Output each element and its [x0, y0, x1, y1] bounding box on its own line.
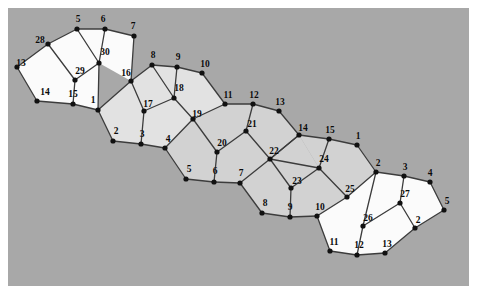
graph-vertex — [128, 78, 133, 83]
graph-vertex — [401, 173, 406, 178]
figure-stage: 1328567302914151168910181723191112132120… — [0, 0, 477, 294]
graph-vertex — [95, 107, 100, 112]
graph-vertex — [267, 156, 272, 161]
graph-vertex — [96, 60, 101, 65]
graph-vertex — [360, 223, 365, 228]
graph-vertex — [276, 108, 281, 113]
graph-vertex — [70, 101, 75, 106]
graph-vertex — [327, 248, 332, 253]
graph-vertex — [250, 101, 255, 106]
graph-vertex — [243, 128, 248, 133]
graph-vertex — [74, 26, 79, 31]
graph-vertex — [222, 101, 227, 106]
polygon-tiling-svg — [0, 0, 477, 294]
graph-vertex — [45, 41, 50, 46]
graph-vertex — [131, 33, 136, 38]
diagram-canvas — [0, 0, 477, 294]
graph-vertex — [427, 179, 432, 184]
graph-vertex — [183, 176, 188, 181]
graph-vertex — [102, 26, 107, 31]
graph-vertex — [72, 77, 77, 82]
graph-vertex — [149, 62, 154, 67]
graph-vertex — [314, 213, 319, 218]
graph-vertex — [110, 138, 115, 143]
graph-vertex — [354, 252, 359, 257]
graph-vertex — [141, 108, 146, 113]
graph-vertex — [354, 142, 359, 147]
graph-vertex — [397, 200, 402, 205]
graph-vertex — [211, 179, 216, 184]
graph-vertex — [199, 70, 204, 75]
graph-vertex — [34, 98, 39, 103]
graph-vertex — [138, 141, 143, 146]
graph-vertex — [214, 149, 219, 154]
graph-vertex — [259, 210, 264, 215]
graph-vertex — [412, 225, 417, 230]
graph-vertex — [373, 169, 378, 174]
graph-vertex — [296, 132, 301, 137]
graph-vertex — [316, 165, 321, 170]
graph-vertex — [382, 250, 387, 255]
graph-vertex — [326, 136, 331, 141]
graph-vertex — [162, 145, 167, 150]
graph-vertex — [174, 64, 179, 69]
graph-vertex — [237, 180, 242, 185]
graph-vertex — [190, 116, 195, 121]
graph-vertex — [344, 194, 349, 199]
graph-vertex — [287, 214, 292, 219]
graph-vertex — [14, 64, 19, 69]
graph-vertex — [441, 207, 446, 212]
graph-vertex — [288, 185, 293, 190]
graph-vertex — [171, 95, 176, 100]
